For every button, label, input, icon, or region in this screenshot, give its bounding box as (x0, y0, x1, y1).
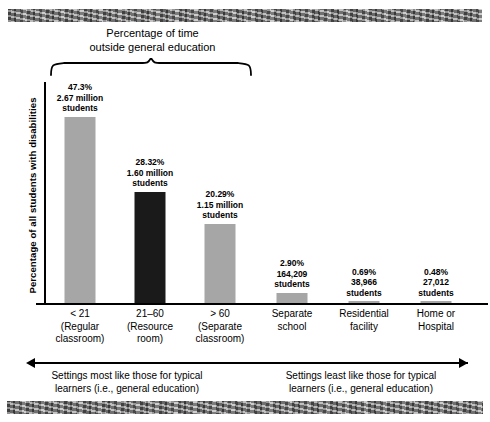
chart-figure: Percentage of all students with disabili… (0, 0, 490, 422)
arrow-right-line (246, 362, 468, 364)
x-tick-line-2: Hospital (395, 321, 477, 334)
x-tick-label: Home or Hospital (395, 308, 477, 333)
x-tick-line-1: > 60 (179, 308, 261, 321)
x-tick-line-1: Home or (395, 308, 477, 321)
bar-value-label: 20.29% 1.15 million students (174, 189, 266, 221)
bar-count-line-1: 1.60 million (104, 168, 196, 179)
bar-percent: 20.29% (174, 189, 266, 200)
x-tick-line-1: Separate (251, 308, 333, 321)
x-tick-line-3: classroom) (179, 333, 261, 346)
arrow-right-icon (459, 358, 468, 368)
annotation-left: Settings most like those for typical lea… (14, 370, 240, 395)
bar-rect (205, 224, 236, 304)
annotation-left-line-1: Settings most like those for typical (14, 370, 240, 383)
bar-value-label: 47.3% 2.67 million students (34, 82, 126, 114)
x-tick-line-2: facility (323, 321, 405, 334)
bar-count-line-2: students (34, 103, 126, 114)
x-tick-label: Residential facility (323, 308, 405, 333)
annotation-right: Settings least like those for typical le… (248, 370, 474, 395)
x-axis-line (36, 303, 488, 305)
bar-count-line-1: 1.15 million (174, 200, 266, 211)
scan-artifact-top-strip (8, 9, 482, 22)
bar-rect (135, 192, 166, 304)
x-tick-line-1: Residential (323, 308, 405, 321)
bracket-title-line-1: Percentage of time (60, 26, 245, 40)
bar-value-label: 0.48% 27,012 students (390, 267, 482, 299)
bar-value-label: 28.32% 1.60 million students (104, 157, 196, 189)
x-axis-tick-labels: < 21 (Regular classroom) 21–60 (Resource… (44, 308, 488, 356)
bar-column: 0.48% 27,012 students (400, 60, 472, 304)
bar-percent: 28.32% (104, 157, 196, 168)
bar-count-line-2: students (174, 210, 266, 221)
bar-count-line-2: students (104, 178, 196, 189)
x-tick-line-2: (Separate (179, 321, 261, 334)
bar-count-line-1: 2.67 million (34, 93, 126, 104)
x-tick-label: Separate school (251, 308, 333, 333)
annotation-right-line-2: learners (i.e., general education) (248, 383, 474, 396)
plot-area: 47.3% 2.67 million students 28.32% 1.60 … (44, 60, 488, 304)
annotation-right-line-1: Settings least like those for typical (248, 370, 474, 383)
annotation-left-line-2: learners (i.e., general education) (14, 383, 240, 396)
scan-artifact-bottom-strip (7, 401, 483, 414)
bar-count-line-2: students (390, 288, 482, 299)
x-tick-line-2: school (251, 321, 333, 334)
bar-count-line-1: 27,012 (390, 277, 482, 288)
arrow-left-line (34, 362, 248, 364)
footer-annotations: Settings most like those for typical lea… (0, 358, 490, 402)
bracket-title: Percentage of time outside general educa… (60, 26, 245, 54)
bar-percent: 0.48% (390, 267, 482, 278)
bar-rect (65, 117, 96, 304)
bracket-title-line-2: outside general education (60, 40, 245, 54)
bar-column: 28.32% 1.60 million students (114, 60, 186, 304)
bar-percent: 47.3% (34, 82, 126, 93)
x-tick-label: > 60 (Separate classroom) (179, 308, 261, 346)
